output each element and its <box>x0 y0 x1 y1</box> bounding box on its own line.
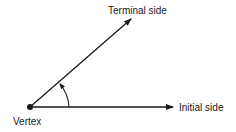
angle-arc-arrow <box>60 84 69 107</box>
angle-diagram: Terminal side Initial side Vertex <box>0 0 236 132</box>
terminal-side-ray <box>30 19 131 107</box>
vertex-label: Vertex <box>13 117 41 127</box>
initial-side-label: Initial side <box>179 103 223 113</box>
vertex-dot <box>27 104 33 110</box>
terminal-side-label: Terminal side <box>108 6 167 16</box>
